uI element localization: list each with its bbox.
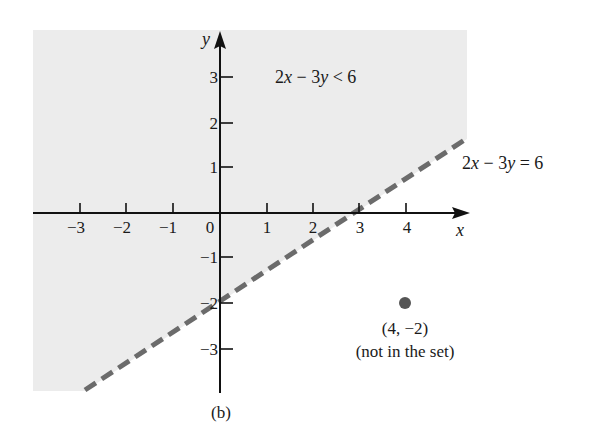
x-tick-label: 2 — [309, 218, 318, 237]
y-tick-label: −1 — [200, 248, 218, 267]
y-axis-label: y — [200, 29, 210, 49]
x-tick-label: −3 — [67, 218, 85, 237]
point-note: (not in the set) — [356, 342, 455, 361]
point-label: (4, −2) — [382, 319, 428, 338]
y-tick-label: 2 — [210, 114, 219, 133]
y-tick-label: −3 — [200, 340, 218, 359]
test-point — [399, 297, 411, 309]
x-tick-label: −1 — [159, 218, 177, 237]
figure-caption: (b) — [211, 403, 231, 422]
x-tick-label: 3 — [356, 218, 365, 237]
x-tick-label: 4 — [403, 218, 412, 237]
x-tick-label: 1 — [263, 218, 272, 237]
y-tick-label: 1 — [210, 158, 219, 177]
x-tick-label: 0 — [206, 218, 215, 237]
x-tick-label: −2 — [113, 218, 131, 237]
x-axis-label: x — [455, 220, 464, 240]
y-tick-label: −2 — [200, 294, 218, 313]
region-label: 2x − 3y < 6 — [275, 67, 356, 87]
y-tick-label: 3 — [210, 68, 219, 87]
inequality-graph: −3 −2 −1 0 1 2 3 4 3 2 1 −1 −2 −3 x y 2x… — [0, 0, 593, 442]
boundary-label: 2x − 3y = 6 — [462, 153, 543, 173]
